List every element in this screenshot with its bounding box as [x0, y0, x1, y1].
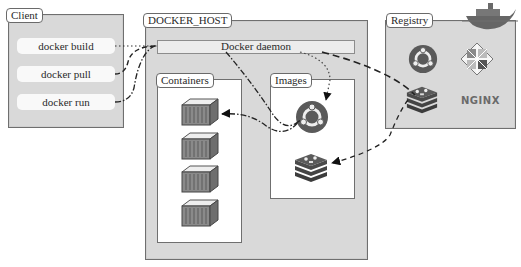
ubuntu-image-icon: [295, 100, 329, 134]
docker-pull-command[interactable]: docker pull: [17, 66, 115, 82]
centos-logo-icon: [460, 42, 494, 76]
container-icon: [180, 97, 220, 127]
containers-title: Containers: [156, 73, 214, 88]
nginx-logo-icon: NGINX: [461, 95, 500, 106]
docker-host-title: DOCKER_HOST: [143, 13, 232, 28]
redis-logo-icon: [405, 84, 439, 114]
container-icon: [180, 131, 220, 161]
docker-run-command[interactable]: docker run: [17, 94, 115, 110]
docker-whale-icon: [462, 1, 518, 31]
registry-title: Registry: [386, 13, 433, 28]
docker-daemon-bar: Docker daemon: [157, 40, 355, 54]
container-icon: [180, 198, 220, 228]
redis-image-icon: [293, 152, 329, 182]
ubuntu-logo-icon: [408, 44, 438, 74]
client-title: Client: [6, 8, 43, 23]
docker-build-command[interactable]: docker build: [17, 38, 115, 54]
container-icon: [180, 164, 220, 194]
images-title: Images: [270, 73, 312, 88]
